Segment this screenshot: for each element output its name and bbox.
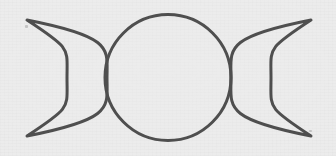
full-moon-shape <box>105 15 231 141</box>
triple-moon-symbol <box>0 0 336 156</box>
image-canvas <box>0 0 336 156</box>
waning-crescent-shape <box>231 20 311 136</box>
waxing-crescent-shape <box>27 20 107 136</box>
